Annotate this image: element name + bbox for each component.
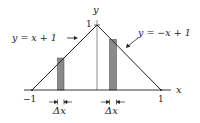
- left-strip: [58, 58, 65, 90]
- x-tick-label-neg1: −1: [23, 95, 36, 104]
- right-strip: [110, 40, 117, 91]
- vertex-neg1: [31, 89, 33, 91]
- arrow-icon: [126, 38, 138, 48]
- delta-x-marker-left: [49, 100, 72, 105]
- curve-label-right: y = −x + 1: [138, 28, 191, 38]
- delta-x-marker-right: [101, 100, 125, 105]
- delta-x-label-right: Δx: [105, 106, 118, 116]
- x-axis-label: x: [176, 85, 182, 95]
- vertex-pos1: [160, 89, 162, 91]
- y-axis-label: y: [93, 5, 99, 15]
- x-tick-label-1: 1: [158, 95, 164, 104]
- triangle-area-diagram: y x 1 −1 1 y = x + 1 y = −x + 1 Δx Δx: [0, 0, 200, 123]
- y-tick-label-1: 1: [86, 20, 92, 29]
- delta-x-label-left: Δx: [53, 106, 66, 116]
- arrow-icon: [67, 36, 78, 40]
- curve-label-left: y = x + 1: [12, 33, 57, 43]
